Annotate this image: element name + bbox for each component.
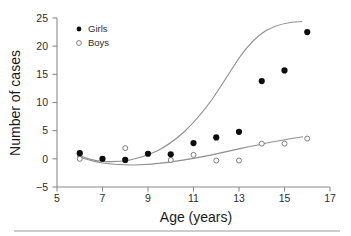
x-tick-label: 5 (54, 192, 60, 204)
legend-item-boys: Boys (77, 37, 110, 48)
legend-label-boys: Boys (88, 37, 109, 48)
y-tick-label: 0 (42, 153, 48, 165)
data-point-girls (190, 140, 196, 146)
data-point-boys (168, 157, 173, 162)
data-point-girls (77, 150, 83, 156)
data-point-boys (237, 158, 242, 163)
x-tick-label: 15 (279, 192, 291, 204)
x-tick-label: 7 (100, 192, 106, 204)
data-point-boys (214, 158, 219, 163)
legend-marker-girls-filled-circle (77, 27, 82, 32)
y-tick-label: 10 (36, 96, 48, 108)
y-tick-label: −5 (36, 181, 48, 193)
data-point-boys (282, 141, 287, 146)
x-tick-label: 9 (145, 192, 151, 204)
legend-item-girls: Girls (77, 23, 108, 34)
data-point-girls (99, 156, 105, 162)
girls-fit-curve (78, 22, 302, 162)
y-tick-label: 5 (42, 124, 48, 136)
y-tick-label: 15 (36, 68, 48, 80)
data-point-boys (191, 152, 196, 157)
data-point-girls (281, 67, 287, 73)
data-point-girls (304, 29, 310, 35)
data-point-boys (259, 141, 264, 146)
data-point-girls (168, 151, 174, 157)
legend-label-girls: Girls (88, 23, 108, 34)
girls-data-points (77, 29, 311, 163)
data-point-girls (122, 157, 128, 163)
x-tick-label: 11 (188, 192, 199, 204)
chart-figure: 25 20 15 10 5 0 −5 5 7 9 11 13 15 17 (0, 0, 351, 236)
data-point-girls (213, 134, 219, 140)
x-tick-label: 13 (233, 192, 245, 204)
y-axis-ticks (53, 18, 58, 187)
data-point-boys (77, 156, 82, 161)
data-point-girls (236, 129, 242, 135)
data-point-girls (259, 78, 265, 84)
boys-fit-curve (77, 137, 303, 165)
x-axis-tick-labels: 5 7 9 11 13 15 17 (54, 192, 336, 204)
y-axis-title: Number of cases (7, 50, 23, 156)
data-point-boys (305, 136, 310, 141)
y-tick-label: 25 (36, 12, 48, 24)
y-tick-label: 20 (36, 40, 48, 52)
x-axis-ticks (57, 187, 330, 192)
scatter-plot-canvas: 25 20 15 10 5 0 −5 5 7 9 11 13 15 17 (0, 0, 351, 236)
data-point-girls (145, 151, 151, 157)
x-tick-label: 17 (324, 192, 336, 204)
legend-marker-boys-open-circle (77, 41, 82, 46)
legend: Girls Boys (77, 23, 110, 48)
y-axis-tick-labels: 25 20 15 10 5 0 −5 (36, 12, 48, 193)
data-point-boys (123, 146, 128, 151)
x-axis-title: Age (years) (160, 209, 232, 225)
